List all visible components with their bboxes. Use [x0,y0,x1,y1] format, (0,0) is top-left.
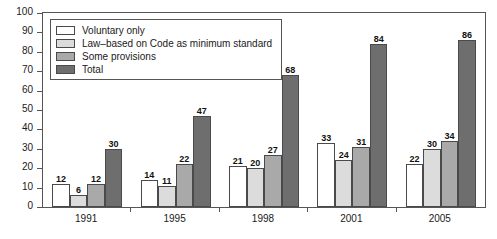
bar-value-label: 47 [197,106,207,116]
bar[interactable]: 11 [158,186,176,207]
bar-value-label: 11 [162,176,172,186]
legend-label: Total [82,64,103,75]
bar-value-label: 31 [356,137,366,147]
legend-item[interactable]: Some provisions [56,50,272,62]
bar[interactable]: 34 [441,141,459,207]
bar-value-label: 24 [339,150,349,160]
bar[interactable]: 30 [105,149,123,207]
bar[interactable]: 12 [52,184,70,207]
bar-value-label: 21 [233,156,243,166]
y-axis-tick-label: 80 [22,45,33,57]
y-axis-tick-label: 60 [22,84,33,96]
x-axis-group-label: 2005 [396,213,484,224]
bar-value-label: 33 [321,133,331,143]
y-axis: 0102030405060708090100 [0,12,42,208]
bar-value-label: 6 [76,185,81,195]
legend-item[interactable]: Total [56,63,272,75]
bar-value-label: 12 [91,174,101,184]
x-axis-separator-tick [219,208,220,212]
bar-value-label: 12 [56,174,66,184]
bar[interactable]: 47 [193,116,211,207]
y-axis-tick-label: 70 [22,64,33,76]
legend-item[interactable]: Law–based on Code as minimum standard [56,37,272,49]
bar[interactable]: 27 [264,155,282,207]
bar-value-label: 27 [268,145,278,155]
legend-swatch [56,52,75,61]
y-axis-tick-label: 10 [22,181,33,193]
bar[interactable]: 24 [335,160,353,207]
x-axis-separator-tick [396,208,397,212]
bar[interactable]: 22 [406,164,424,207]
bar[interactable]: 12 [87,184,105,207]
bar-value-label: 30 [108,139,118,149]
y-axis-tick-label: 90 [22,25,33,37]
legend-swatch [56,65,75,74]
bar[interactable]: 86 [458,40,476,207]
bar-value-label: 86 [462,30,472,40]
x-axis-separator-tick [307,208,308,212]
y-axis-tick-label: 0 [27,200,33,212]
legend-label: Voluntary only [82,25,145,36]
bar[interactable]: 84 [370,44,388,207]
bar[interactable]: 31 [352,147,370,207]
legend-item[interactable]: Voluntary only [56,24,272,36]
bar-value-label: 68 [285,65,295,75]
bar-chart: 0102030405060708090100 12612301411224721… [0,0,497,239]
bar-value-label: 20 [250,158,260,168]
bar[interactable]: 21 [229,166,247,207]
bar-value-label: 22 [179,154,189,164]
bar-value-label: 22 [410,154,420,164]
legend-label: Some provisions [82,51,156,62]
x-axis-separator-tick [130,208,131,212]
bar[interactable]: 68 [282,75,300,207]
y-axis-tick-label: 40 [22,122,33,134]
bar-value-label: 30 [427,139,437,149]
bar-value-label: 14 [144,170,154,180]
bar[interactable]: 6 [70,195,88,207]
y-axis-tick-label: 20 [22,161,33,173]
x-axis-group-label: 2001 [307,213,395,224]
x-axis-group-label: 1991 [42,213,130,224]
bar-value-label: 84 [374,34,384,44]
x-axis-group-label: 1998 [219,213,307,224]
y-axis-tick-label: 30 [22,142,33,154]
x-axis: 19911995199820012005 [42,208,486,230]
legend: Voluntary onlyLaw–based on Code as minim… [50,19,282,80]
bar[interactable]: 33 [317,143,335,207]
y-axis-tick-label: 100 [16,6,33,18]
bar[interactable]: 14 [141,180,159,207]
bar[interactable]: 20 [247,168,265,207]
legend-swatch [56,39,75,48]
legend-swatch [56,26,75,35]
x-axis-group-label: 1995 [130,213,218,224]
legend-label: Law–based on Code as minimum standard [82,38,272,49]
bar-value-label: 34 [445,131,455,141]
y-axis-tick-label: 50 [22,103,33,115]
bar[interactable]: 30 [423,149,441,207]
bar[interactable]: 22 [176,164,194,207]
